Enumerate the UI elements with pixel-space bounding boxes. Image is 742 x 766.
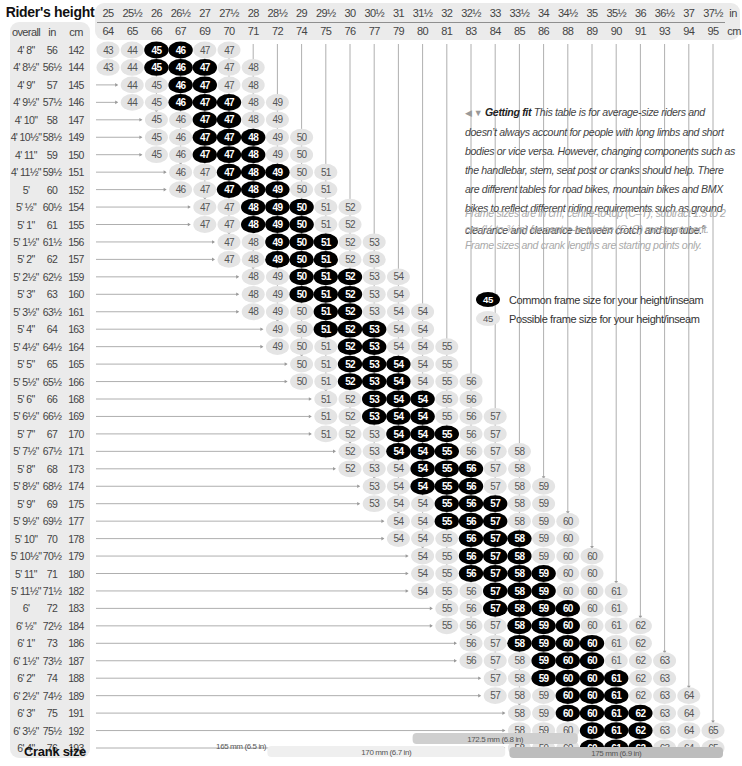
- frame-size-label: 54: [418, 516, 429, 527]
- arrow-right-icon: [236, 275, 239, 279]
- frame-size-label: 57: [490, 429, 501, 440]
- frame-size-label: 62: [636, 708, 647, 719]
- row-height-in: 59½: [43, 166, 62, 178]
- row-height-cm: 173: [68, 463, 84, 475]
- frame-size-label: 47: [200, 45, 211, 56]
- frame-size-label: 48: [248, 219, 259, 230]
- frame-size-label: 45: [152, 45, 163, 56]
- frame-size-label: 54: [394, 324, 405, 335]
- frame-size-label: 52: [345, 446, 356, 457]
- frame-size-label: 60: [563, 690, 574, 701]
- frame-size-label: 52: [345, 254, 356, 265]
- frame-size-label: 49: [273, 341, 284, 352]
- frame-size-label: 57: [490, 533, 501, 544]
- legend-common-label: Common frame size for your height/inseam: [509, 294, 703, 306]
- arrow-right-icon: [309, 432, 312, 436]
- frame-size-label: 53: [369, 359, 380, 370]
- row-height-cm: 169: [68, 410, 84, 422]
- frame-size-label: 47: [224, 219, 235, 230]
- frame-size-label: 47: [224, 45, 235, 56]
- frame-size-label: 54: [418, 481, 429, 492]
- frame-size-label: 48: [248, 62, 259, 73]
- frame-size-label: 48: [248, 167, 259, 178]
- row-height-cm: 165: [68, 358, 84, 370]
- inseam-in-tick: 26: [151, 7, 163, 19]
- frame-size-label: 54: [394, 394, 405, 405]
- frame-size-label: 58: [515, 551, 526, 562]
- frame-size-label: 46: [176, 80, 187, 91]
- row-height-cm: 182: [68, 585, 84, 597]
- frame-size-label: 50: [297, 132, 308, 143]
- inseam-in-tick: 27½: [219, 7, 239, 19]
- frame-size-label: 56: [466, 394, 477, 405]
- frame-size-label: 52: [345, 219, 356, 230]
- frame-size-label: 51: [321, 376, 332, 387]
- frame-size-label: 49: [273, 202, 284, 213]
- frame-size-label: 54: [418, 446, 429, 457]
- frame-size-label: 54: [394, 376, 405, 387]
- frame-size-label: 47: [224, 149, 235, 160]
- frame-size-label: 48: [248, 289, 259, 300]
- inseam-in-tick: 33½: [510, 7, 530, 19]
- frame-size-label: 57: [490, 463, 501, 474]
- frame-size-label: 53: [369, 341, 380, 352]
- crank-band-label: 170 mm (6.7 in): [361, 748, 412, 757]
- frame-size-label: 57: [490, 673, 501, 684]
- row-height-in: 60½: [43, 201, 62, 213]
- inseam-in-tick: 27: [199, 7, 211, 19]
- frame-size-label: 60: [587, 708, 598, 719]
- row-height-cm: 145: [68, 79, 84, 91]
- frame-size-label: 55: [442, 341, 453, 352]
- inseam-cm-tick: 74: [296, 25, 308, 37]
- frame-size-label: 46: [176, 62, 187, 73]
- frame-size-label: 58: [515, 463, 526, 474]
- frame-size-label: 54: [394, 289, 405, 300]
- arrow-right-icon: [502, 711, 505, 715]
- frame-size-label: 63: [660, 673, 671, 684]
- frame-size-label: 45: [152, 149, 163, 160]
- frame-size-label: 56: [466, 463, 477, 474]
- row-height-in: 74½: [43, 690, 62, 702]
- row-overall-height: 4' 10½": [11, 131, 43, 143]
- frame-size-label: 56: [466, 655, 477, 666]
- row-overall-height: 6' 3½": [13, 725, 39, 737]
- row-height-in: 71: [47, 568, 58, 580]
- row-height-cm: 175: [68, 498, 84, 510]
- frame-size-label: 59: [539, 586, 550, 597]
- row-overall-height: 6' 1½": [13, 655, 39, 667]
- row-overall-height: 4' 8½": [13, 61, 39, 73]
- row-overall-height: 6' 2": [17, 672, 35, 684]
- inseam-cm-tick: 79: [393, 25, 405, 37]
- row-overall-height: 5' 1½": [13, 236, 39, 248]
- inseam-in-tick: 34: [538, 7, 550, 19]
- row-overall-height: 5' 5": [17, 358, 35, 370]
- frame-size-label: 57: [490, 638, 501, 649]
- frame-size-label: 57: [490, 620, 501, 631]
- frame-size-label: 45: [152, 97, 163, 108]
- frame-size-label: 60: [587, 620, 598, 631]
- row-height-cm: 178: [68, 533, 84, 545]
- frame-size-label: 62: [636, 655, 647, 666]
- frame-size-label: 59: [539, 638, 550, 649]
- frame-size-label: 50: [297, 202, 308, 213]
- frame-size-label: 49: [273, 237, 284, 248]
- frame-size-label: 47: [200, 80, 211, 91]
- row-height-cm: 157: [68, 253, 84, 265]
- inseam-in-tick: 35½: [606, 7, 626, 19]
- row-overall-height: 5' 2½": [13, 271, 39, 283]
- row-height-in: 57: [47, 79, 58, 91]
- inseam-in-tick: 36: [635, 7, 647, 19]
- frame-size-label: 57: [490, 481, 501, 492]
- row-height-in: 73: [47, 637, 58, 649]
- frame-size-label: 50: [297, 237, 308, 248]
- frame-size-label: 47: [224, 254, 235, 265]
- arrow-right-icon: [357, 502, 360, 506]
- inseam-in-tick: 36½: [655, 7, 675, 19]
- frame-size-label: 48: [248, 97, 259, 108]
- frame-size-label: 56: [466, 551, 477, 562]
- row-overall-height: 5' 11½": [11, 585, 42, 597]
- frame-size-label: 58: [515, 446, 526, 457]
- legend-common-swatch: 45: [476, 292, 500, 307]
- row-height-in: 63: [47, 288, 58, 300]
- frame-size-label: 62: [636, 673, 647, 684]
